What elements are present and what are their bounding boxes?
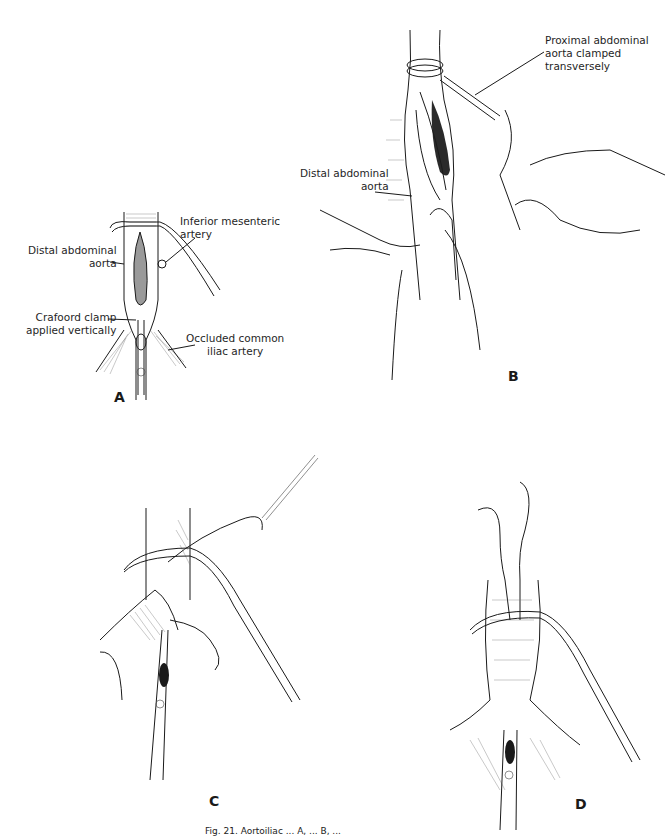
panel-b-drawing — [320, 30, 665, 380]
illustration-canvas — [0, 0, 665, 838]
panel-d-drawing — [450, 482, 640, 830]
panel-c-drawing — [100, 455, 318, 780]
panel-letter-a: A — [114, 389, 125, 405]
label-distal-abdominal-aorta-a: Distal abdominal aorta — [28, 244, 117, 270]
panel-letter-b: B — [508, 368, 519, 384]
label-crafoord-clamp: Crafoord clamp applied vertically — [26, 311, 116, 337]
label-occluded-iliac-artery: Occluded common iliac artery — [186, 332, 284, 358]
label-proximal-abdominal-aorta: Proximal abdominal aorta clamped transve… — [545, 34, 649, 73]
panel-letter-d: D — [575, 796, 587, 812]
panel-letter-c: C — [209, 793, 219, 809]
label-inferior-mesenteric-artery: Inferior mesenteric artery — [180, 215, 280, 241]
figure-caption: Fig. 21. Aortoiliac ... A, ... B, ... — [205, 826, 341, 836]
label-distal-abdominal-aorta-b: Distal abdominal aorta — [300, 167, 389, 193]
